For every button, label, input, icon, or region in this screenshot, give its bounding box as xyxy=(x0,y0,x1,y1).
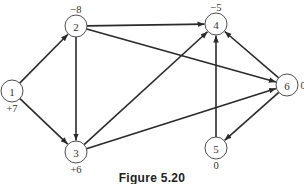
edge-1-to-3 xyxy=(20,99,68,144)
figure-caption: Figure 5.20 xyxy=(0,171,304,184)
node-label: 2 xyxy=(73,21,79,33)
edge-6-to-4 xyxy=(225,31,279,77)
node-label: 5 xyxy=(213,143,219,155)
node-4: 4−5 xyxy=(205,2,227,36)
edge-3-to-6 xyxy=(86,88,276,148)
edge-1-to-2 xyxy=(20,34,68,83)
edge-3-to-4 xyxy=(84,32,207,145)
node-supply-value: +7 xyxy=(6,103,17,114)
node-label: 3 xyxy=(73,147,79,159)
node-supply-value: 0 xyxy=(300,80,304,91)
edge-2-to-4 xyxy=(87,24,205,26)
node-label: 4 xyxy=(213,19,219,31)
edge-6-to-5 xyxy=(225,92,279,140)
node-label: 6 xyxy=(284,80,290,92)
node-6: 60 xyxy=(276,74,304,96)
node-3: 3+6 xyxy=(65,141,87,175)
node-5: 50 xyxy=(205,137,227,171)
node-1: 1+7 xyxy=(1,80,23,114)
node-2: 2−8 xyxy=(65,4,87,38)
nodes: 1+72−83+64−55060 xyxy=(1,2,304,175)
node-supply-value: −8 xyxy=(70,4,81,15)
node-label: 1 xyxy=(9,86,15,98)
node-supply-value: 0 xyxy=(213,160,218,171)
edges xyxy=(20,24,279,149)
node-supply-value: −5 xyxy=(210,2,221,13)
network-graph: 1+72−83+64−55060 xyxy=(0,0,304,184)
